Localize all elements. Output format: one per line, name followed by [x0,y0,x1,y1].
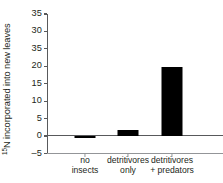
y-axis-tick-label: –5 [32,149,42,158]
y-axis-spine [47,14,48,154]
x-axis-category-labels: noinsectsdetritivoresonlydetritivores+ p… [47,155,223,183]
y-axis-tick-mark [44,31,47,32]
y-axis-title-superscript: 15 [1,148,8,155]
y-axis-title: 15N incorporated into new leaves [2,23,12,155]
bar-chart-figure: 15N incorporated into new leaves 3530352… [0,0,223,183]
y-axis-title-wrap: 15N incorporated into new leaves [0,0,16,160]
plot-area: 35303520151050–5 [47,14,223,154]
bar [75,136,96,138]
x-axis-category-label-line: detritivores [107,155,149,165]
y-axis-tick-label: 30 [32,27,42,36]
y-axis-title-text: N incorporated into new leaves [2,23,12,148]
y-axis-tick-label: 10 [32,97,42,106]
y-axis-tick-label: 35 [32,9,42,18]
y-axis-tick-label: 35 [32,44,42,53]
x-axis-category-label-line: insects [72,165,99,175]
y-axis-tick-label: 0 [37,131,42,140]
y-axis-tick-label: 20 [32,62,42,71]
x-axis-category-label-line: no [72,155,99,165]
x-axis-category-label: detritivoresonly [107,155,149,176]
x-axis-category-label-line: only [107,165,149,175]
y-axis-tick-label: 5 [37,114,42,123]
bar [118,130,139,136]
y-axis-tick-mark [44,83,47,84]
y-axis-tick-mark [44,101,47,102]
bar [162,67,183,136]
y-axis-tick-mark [44,118,47,119]
x-axis-category-label-line: + predators [150,165,194,175]
x-axis-category-label: noinsects [72,155,99,176]
x-axis-category-label-line: detritivores [150,155,194,165]
y-axis-tick-label: 15 [32,79,42,88]
x-axis-category-label: detritivores+ predators [150,155,194,176]
y-axis-tick-mark [44,13,47,14]
y-axis-tick-mark [44,48,47,49]
y-axis-tick-mark [44,66,47,67]
